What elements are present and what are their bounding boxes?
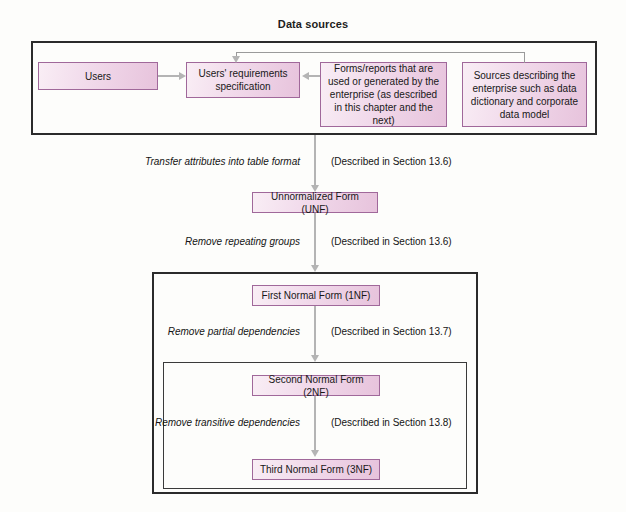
transition-to-3nf-note: (Described in Section 13.8)	[331, 417, 452, 428]
box-users[interactable]: Users	[38, 62, 158, 90]
box-forms-reports-label: Forms/reports that are used or generated…	[325, 62, 442, 127]
connector-1nf-to-2nf	[314, 306, 316, 357]
box-sources-describing-enterprise[interactable]: Sources describing the enterprise such a…	[462, 62, 587, 127]
transition-to-1nf-note: (Described in Section 13.6)	[331, 236, 452, 247]
transition-to-unf-action: Transfer attributes into table format	[60, 156, 300, 167]
connector-sources-riser	[524, 52, 525, 63]
box-second-normal-form-label: Second Normal Form (2NF)	[257, 373, 375, 399]
page-title: Data sources	[0, 18, 626, 30]
box-users-label: Users	[43, 70, 153, 83]
connector-sources-horizontal	[236, 52, 525, 53]
box-sources-describing-enterprise-label: Sources describing the enterprise such a…	[467, 69, 582, 121]
box-third-normal-form[interactable]: Third Normal Form (3NF)	[252, 459, 380, 480]
box-forms-reports[interactable]: Forms/reports that are used or generated…	[320, 62, 447, 127]
transition-to-unf-note: (Described in Section 13.6)	[331, 156, 452, 167]
box-users-requirements-specification[interactable]: Users' requirements specification	[186, 62, 300, 98]
box-third-normal-form-label: Third Normal Form (3NF)	[257, 463, 375, 476]
arrowhead-to-3nf	[311, 450, 319, 457]
connector-sources-to-unf	[314, 135, 316, 187]
arrowhead-sources-to-requirements	[232, 56, 240, 63]
connector-forms-to-requirements	[309, 75, 320, 77]
connector-2nf-to-3nf	[314, 396, 316, 452]
transition-to-1nf-action: Remove repeating groups	[60, 236, 300, 247]
connector-users-to-requirements	[158, 75, 179, 77]
box-unnormalized-form[interactable]: Unnormalized Form (UNF)	[252, 192, 378, 213]
box-unnormalized-form-label: Unnormalized Form (UNF)	[257, 190, 373, 216]
box-first-normal-form-label: First Normal Form (1NF)	[257, 289, 375, 302]
normalization-flowchart: Data sources Users Users' requirements s…	[0, 0, 626, 512]
box-users-requirements-specification-label: Users' requirements specification	[191, 67, 295, 93]
connector-unf-to-1nf	[314, 213, 316, 267]
transition-to-3nf-action: Remove transitive dependencies	[60, 417, 300, 428]
arrowhead-forms-to-requirements	[302, 72, 309, 80]
box-first-normal-form[interactable]: First Normal Form (1NF)	[252, 285, 380, 306]
arrowhead-users-to-requirements	[179, 72, 186, 80]
arrowhead-to-1nf	[311, 265, 319, 272]
box-second-normal-form[interactable]: Second Normal Form (2NF)	[252, 375, 380, 396]
transition-to-2nf-action: Remove partial dependencies	[60, 326, 300, 337]
transition-to-2nf-note: (Described in Section 13.7)	[331, 326, 452, 337]
arrowhead-to-2nf	[311, 355, 319, 362]
